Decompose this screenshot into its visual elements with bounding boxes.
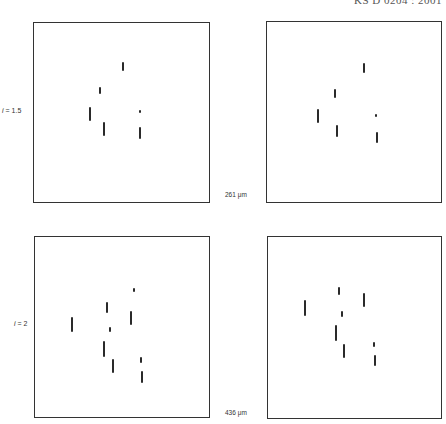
particle-mark xyxy=(341,311,343,317)
particle-mark xyxy=(109,327,111,332)
row-label-2: i = 2 xyxy=(14,320,27,327)
particle-mark xyxy=(343,344,345,358)
particle-mark xyxy=(130,311,132,325)
scale-label-2: 436 μm xyxy=(225,409,247,416)
particle-mark xyxy=(335,325,337,341)
panel-top-right xyxy=(266,21,442,203)
particle-mark xyxy=(106,302,108,313)
row-label-eq: = 1.5 xyxy=(4,107,22,114)
particle-mark xyxy=(334,89,336,98)
particle-mark xyxy=(317,109,319,123)
particle-mark xyxy=(139,110,141,113)
particle-mark xyxy=(304,300,306,316)
particle-mark xyxy=(140,357,142,363)
particle-mark xyxy=(103,122,105,136)
document-header: KS D 0204 : 2001 xyxy=(354,0,442,6)
particle-mark xyxy=(375,114,377,117)
panel-bottom-right xyxy=(267,236,442,419)
panel-bottom-left xyxy=(34,236,210,418)
particle-mark xyxy=(133,288,135,292)
particle-mark xyxy=(373,342,375,347)
particle-mark xyxy=(71,317,73,332)
panel-top-left xyxy=(33,22,210,203)
particle-mark xyxy=(376,132,378,143)
particle-mark xyxy=(363,63,365,73)
row-label-1: i = 1.5 xyxy=(2,107,21,114)
scale-label-1: 261 μm xyxy=(225,191,247,198)
particle-mark xyxy=(99,87,101,94)
particle-mark xyxy=(103,341,105,357)
particle-mark xyxy=(112,359,114,373)
particle-mark xyxy=(89,107,91,121)
row-label-eq: = 2 xyxy=(16,320,28,327)
particle-mark xyxy=(374,355,376,366)
particle-mark xyxy=(122,62,124,71)
particle-mark xyxy=(338,287,340,295)
particle-mark xyxy=(363,293,365,307)
particle-mark xyxy=(141,371,143,383)
particle-mark xyxy=(336,125,338,137)
particle-mark xyxy=(139,127,141,139)
